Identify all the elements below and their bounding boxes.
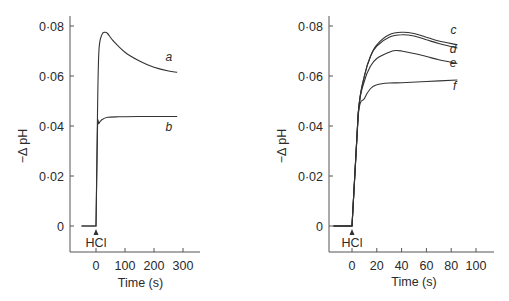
up-arrow-icon	[350, 229, 355, 235]
x-tick-label: 100	[466, 259, 487, 273]
x-tick-label: 300	[173, 259, 194, 273]
x-tick-label: 0	[93, 259, 100, 273]
x-axis-title: Time (s)	[118, 276, 163, 290]
series-e-line	[333, 50, 457, 226]
series-f-line	[333, 80, 457, 226]
y-axis-title: −Δ pH	[275, 129, 289, 163]
series-a-label: a	[166, 50, 173, 64]
series-e-label: e	[450, 56, 457, 70]
x-tick-label: 60	[419, 259, 433, 273]
series-c-label: c	[450, 23, 456, 37]
hcl-annotation: HCl	[342, 236, 363, 250]
y-tick-label: 0·06	[39, 70, 64, 84]
y-tick-label: 0	[316, 220, 323, 234]
x-tick-label: 80	[444, 259, 458, 273]
series-a-line	[82, 32, 178, 226]
y-tick-label: 0·06	[298, 70, 323, 84]
y-tick-label: 0·02	[298, 170, 323, 184]
x-tick-label: 0	[349, 259, 356, 273]
x-tick-label: 200	[144, 259, 165, 273]
chart-left: 00·020·040·060·080100200300Time (s)−Δ pH…	[16, 16, 200, 290]
series-b-line	[82, 117, 178, 227]
y-tick-label: 0·04	[298, 120, 323, 134]
x-tick-label: 20	[370, 259, 384, 273]
y-tick-label: 0	[57, 220, 64, 234]
y-axis-title: −Δ pH	[16, 129, 30, 163]
up-arrow-icon	[94, 229, 99, 235]
y-tick-label: 0·08	[39, 20, 64, 34]
x-tick-label: 100	[115, 259, 136, 273]
chart-right: 00·020·040·060·08020406080100Time (s)−Δ …	[275, 16, 494, 289]
y-tick-label: 0·04	[39, 120, 64, 134]
series-c-line	[333, 32, 457, 226]
figure: 00·020·040·060·080100200300Time (s)−Δ pH…	[0, 0, 509, 301]
series-b-label: b	[166, 120, 173, 134]
x-tick-label: 40	[395, 259, 409, 273]
y-tick-label: 0·08	[298, 20, 323, 34]
series-d-line	[333, 35, 457, 226]
y-tick-label: 0·02	[39, 170, 64, 184]
hcl-annotation: HCl	[86, 236, 107, 250]
series-d-label: d	[450, 42, 457, 56]
series-f-label: f	[453, 79, 458, 93]
x-axis-title: Time (s)	[391, 275, 436, 289]
